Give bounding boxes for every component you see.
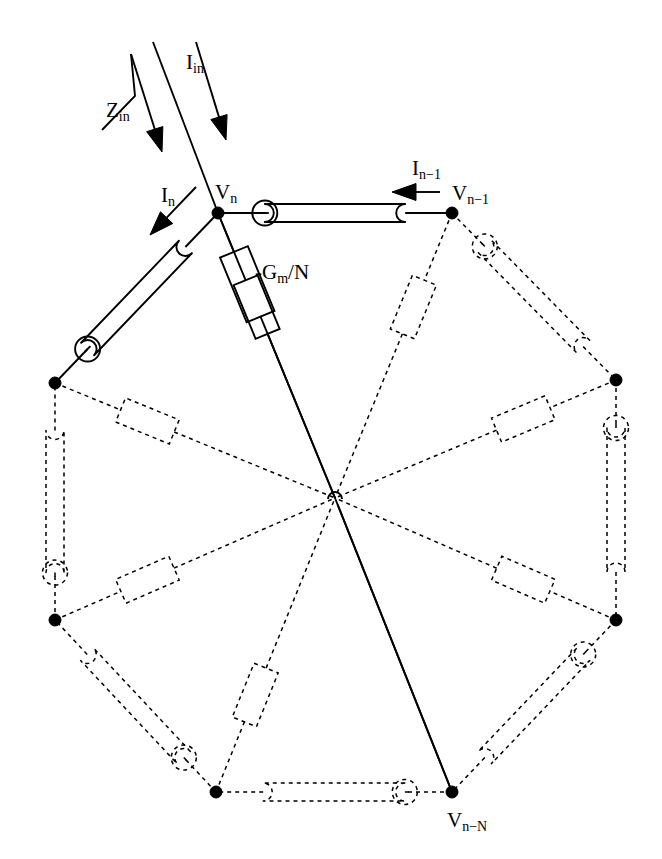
label-v-n: Vn (215, 182, 237, 206)
spokes-group (55, 213, 616, 792)
spoke-rightbottom-center-body (491, 556, 555, 603)
spoke-rightbottom-center-lead-a (550, 591, 616, 620)
arrow-z-in-head (147, 127, 163, 152)
edge-vn-vnm1-body (265, 204, 405, 222)
label-i-in: Iin (186, 52, 204, 76)
nodes-group (49, 207, 622, 798)
label-i-n: In (161, 185, 175, 209)
label-i-in-base: I (186, 50, 193, 74)
edge-rightbottom-vnmN-lead-a (583, 620, 616, 654)
spoke-lefttop-center-lead-b (174, 432, 335, 498)
spoke-righttop-center-lead-a (550, 380, 616, 408)
node-dot (610, 614, 622, 626)
spoke-lefttop-center-body (116, 398, 180, 444)
label-i-nm1-sub: n−1 (419, 167, 441, 182)
spoke-righttop-center-body (491, 396, 555, 442)
spoke-lefttop-center-lead-a (55, 383, 121, 410)
label-i-n-sub: n (168, 194, 175, 209)
edge-vnmN-bottomleft-body (263, 783, 405, 801)
spoke-vnm1-center-lead-a (424, 213, 452, 280)
edge-bottomleft-leftbottom-winding-tick (181, 755, 186, 761)
label-z-in-sub: in (119, 109, 130, 124)
node-dot (49, 377, 61, 389)
circuit-schematic-svg (0, 0, 662, 859)
edge-lefttop-vn-lead-a (55, 349, 88, 383)
spoke-leftbottom-center-lead-b (174, 498, 335, 568)
label-gm-sub: m (277, 271, 288, 286)
edge-bottomleft-leftbottom-lead-a (184, 758, 216, 792)
arrow-i-nm1-head (392, 184, 416, 201)
label-v-n-minus-1: Vn−1 (452, 183, 489, 207)
figure-canvas: Zin Iin In Vn In−1 Vn−1 -Gm/N Vn−N (0, 0, 662, 859)
spoke-bottomleft-center-lead-b (266, 498, 335, 668)
node-dot (49, 614, 61, 626)
edge-lefttop-vn-body (81, 241, 192, 355)
node-dot (212, 207, 224, 219)
node-dot (610, 374, 622, 386)
label-i-n-minus-1: In−1 (412, 158, 441, 182)
label-i-in-sub: in (193, 61, 204, 76)
node-dot (446, 207, 458, 219)
node-dot (210, 786, 222, 798)
label-v-nm1-sub: n−1 (467, 192, 489, 207)
edge-rightbottom-vnmN-winding-tick (580, 652, 586, 658)
spoke-bottomleft-center-body (232, 663, 278, 727)
main-path-group (153, 42, 452, 792)
spoke-vnm1-center-body (390, 275, 436, 339)
center-to-vnmN-line (338, 505, 452, 792)
edge-vnm1-righttop-lead-b (583, 347, 616, 380)
edge-bottomleft-leftbottom-body (81, 648, 191, 764)
label-v-n-base: V (215, 180, 230, 204)
spoke-leftbottom-center-body (116, 556, 180, 603)
edge-lefttop-vn-lead-b (185, 213, 218, 247)
label-i-nm1-base: I (412, 156, 419, 180)
label-v-n-minus-N: Vn−N (447, 810, 487, 834)
edge-righttop-rightbottom-body (607, 428, 625, 572)
negative-gm-resistor-lead-b (261, 317, 335, 498)
label-negative-gm-over-n: -Gm/N (255, 262, 309, 286)
label-v-nm1-base: V (452, 181, 467, 205)
edge-lefttop-vn-winding-tick (85, 346, 91, 352)
spoke-leftbottom-center-lead-a (55, 591, 121, 620)
label-i-n-base: I (161, 183, 168, 207)
label-v-nmN-sub: n−N (462, 819, 487, 834)
edge-rightbottom-vnmN-body (478, 648, 589, 764)
label-v-nmN-base: V (447, 808, 462, 832)
edge-rightbottom-vnmN-lead-b (452, 758, 485, 792)
arrow-i-in-head (211, 115, 227, 140)
edge-leftbottom-lefttop-body (46, 430, 64, 572)
edge-vnm1-righttop-lead-a (452, 213, 485, 246)
edge-vnm1-righttop-body (478, 240, 589, 353)
label-z-in-base: Z (106, 98, 119, 122)
label-gm-tail: /N (288, 260, 309, 284)
label-z-in: Zin (106, 100, 130, 124)
node-dot (446, 786, 458, 798)
ring-edges-group (43, 201, 629, 805)
spoke-bottomleft-center-lead-a (216, 722, 244, 792)
label-v-n-sub: n (230, 191, 237, 206)
edge-vnm1-righttop-winding-tick (482, 244, 488, 250)
label-gm-base: -G (255, 260, 277, 284)
edge-bottomleft-leftbottom-lead-b (55, 620, 87, 654)
